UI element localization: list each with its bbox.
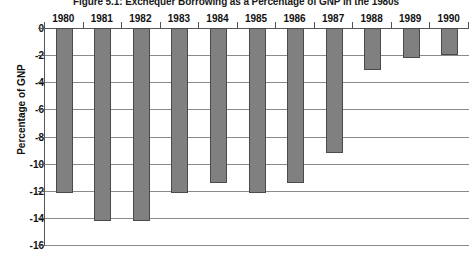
bar[interactable] (171, 28, 188, 193)
bar[interactable] (249, 28, 266, 193)
bar[interactable] (441, 28, 458, 55)
bar[interactable] (94, 28, 111, 221)
plot-inner (45, 28, 469, 245)
chart-title: Figure 5.1: Exchequer Borrowing as a Per… (0, 0, 472, 7)
bar[interactable] (326, 28, 343, 153)
bar[interactable] (287, 28, 304, 183)
chart-screenshot: Figure 5.1: Exchequer Borrowing as a Per… (0, 0, 472, 256)
y-axis-ticks: 0-2-4-6-8-10-12-14-16 (0, 0, 44, 256)
gridline (45, 245, 469, 246)
bar[interactable] (133, 28, 150, 221)
bar[interactable] (403, 28, 420, 58)
bar[interactable] (210, 28, 227, 183)
bar[interactable] (364, 28, 381, 70)
bar[interactable] (56, 28, 73, 193)
plot-area (44, 28, 469, 246)
